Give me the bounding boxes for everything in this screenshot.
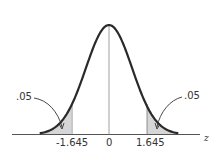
- right-tail-shade: [147, 106, 178, 134]
- tick-label-neg-1645: -1.645: [56, 138, 88, 148]
- tick-label-zero: 0: [106, 138, 112, 148]
- left-arrow: [34, 98, 62, 127]
- right-area-label: .05: [184, 91, 200, 101]
- tick-label-1645: 1.645: [136, 138, 165, 148]
- left-tail-shade: [40, 106, 71, 134]
- right-arrow: [157, 97, 182, 127]
- z-axis-label: z: [204, 134, 209, 143]
- normal-curve-chart: [0, 0, 219, 156]
- left-area-label: .05: [16, 92, 32, 102]
